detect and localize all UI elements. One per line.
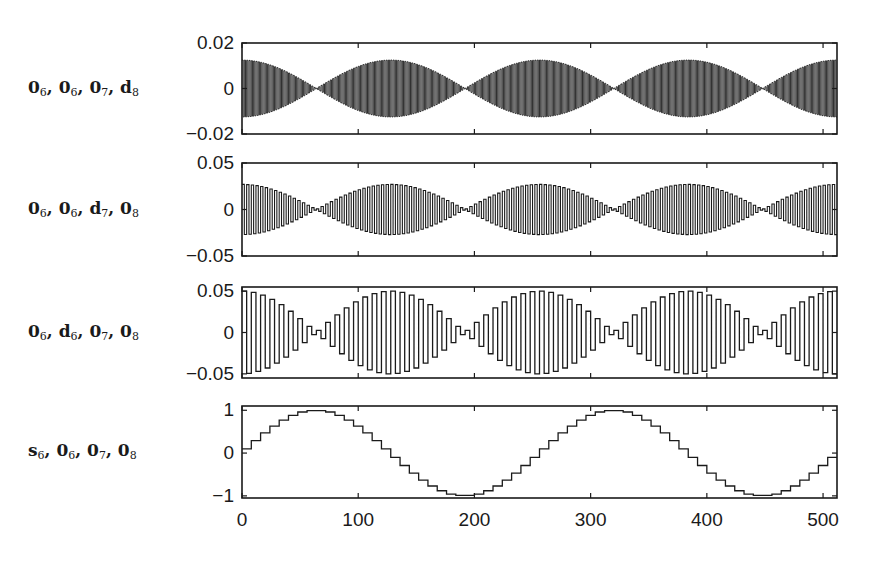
label-subscript: 8 (130, 449, 137, 462)
subplot-2 (242, 163, 837, 256)
x-tick-label: 0 (237, 510, 248, 529)
y-tick-label: 0 (223, 323, 234, 342)
label-subscript: 7 (101, 330, 108, 343)
label-subscript: 7 (101, 86, 108, 99)
label-symbol: d (59, 321, 71, 341)
y-tick-label: 0 (223, 200, 234, 219)
y-tick-label: −1 (212, 486, 234, 505)
y-tick-label: 0.05 (197, 281, 234, 300)
label-subscript: 6 (68, 449, 75, 462)
label-symbol: 0 (87, 440, 99, 460)
label-subscript: 6 (38, 449, 45, 462)
subplot-label: 06, 06, d7, 08 (28, 198, 188, 220)
y-tick-label: 1 (223, 400, 234, 419)
label-symbol: 0 (28, 321, 40, 341)
subplot-label: 06, 06, 07, d8 (28, 77, 188, 99)
signal-line (242, 291, 837, 374)
x-tick-label: 100 (342, 510, 374, 529)
signal-line (242, 411, 837, 496)
label-subscript: 6 (71, 330, 78, 343)
y-tick-label: 0 (223, 443, 234, 462)
subplot-4 (242, 406, 837, 498)
label-symbol: 0 (59, 77, 71, 97)
signal-line (242, 60, 837, 117)
x-tick-label: 500 (807, 510, 839, 529)
subplot-label: s6, 06, 07, 08 (28, 440, 188, 462)
label-symbol: 0 (28, 198, 40, 218)
label-symbol: 0 (59, 198, 71, 218)
label-symbol: 0 (28, 77, 40, 97)
label-subscript: 8 (132, 86, 139, 99)
y-tick-label: 0 (223, 79, 234, 98)
label-subscript: 6 (40, 207, 47, 220)
label-subscript: 6 (40, 330, 47, 343)
x-tick-label: 200 (459, 510, 491, 529)
label-subscript: 6 (71, 86, 78, 99)
label-symbol: d (120, 77, 132, 97)
label-subscript: 6 (71, 207, 78, 220)
y-tick-label: −0.05 (186, 246, 234, 265)
label-symbol: 0 (118, 440, 130, 460)
label-symbol: 0 (120, 198, 132, 218)
y-tick-label: 0.05 (197, 153, 234, 172)
label-symbol: 0 (89, 321, 101, 341)
y-tick-label: −0.02 (186, 124, 234, 143)
label-subscript: 8 (132, 330, 139, 343)
y-tick-label: 0.02 (197, 33, 234, 52)
label-symbol: 0 (120, 321, 132, 341)
label-symbol: d (89, 198, 101, 218)
subplot-label: 06, d6, 07, 08 (28, 321, 188, 343)
label-subscript: 6 (40, 86, 47, 99)
x-tick-label: 400 (691, 510, 723, 529)
label-symbol: 0 (89, 77, 101, 97)
x-tick-label: 300 (575, 510, 607, 529)
label-symbol: s (28, 440, 38, 460)
subplot-1 (242, 43, 837, 134)
signal-line (242, 184, 837, 234)
label-symbol: 0 (56, 440, 68, 460)
subplot-3 (242, 287, 837, 378)
label-subscript: 7 (101, 207, 108, 220)
y-tick-label: −0.05 (186, 364, 234, 383)
label-subscript: 8 (132, 207, 139, 220)
label-subscript: 7 (99, 449, 106, 462)
